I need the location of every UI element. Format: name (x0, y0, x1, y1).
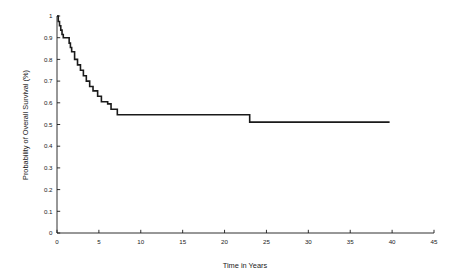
y-tick-label: 0.8 (44, 56, 53, 63)
x-tick-label: 0 (55, 238, 59, 245)
x-tick-label: 30 (305, 238, 312, 245)
y-tick-label: 1 (49, 12, 53, 19)
x-tick-label: 40 (389, 238, 396, 245)
survival-chart-figure: 051015202530354045 00.10.20.30.40.50.60.… (0, 0, 458, 274)
y-axis-tick-group: 00.10.20.30.40.50.60.70.80.91 (44, 12, 60, 236)
x-tick-label: 25 (263, 238, 270, 245)
x-tick-label: 10 (137, 238, 144, 245)
y-tick-label: 0.5 (44, 121, 53, 128)
survival-step-curve (57, 16, 390, 122)
x-tick-label: 35 (347, 238, 354, 245)
x-axis-title: Time in Years (223, 261, 268, 270)
y-tick-label: 0.3 (44, 164, 53, 171)
x-tick-label: 45 (431, 238, 438, 245)
x-tick-label: 20 (221, 238, 228, 245)
kaplan-meier-plot: 051015202530354045 00.10.20.30.40.50.60.… (0, 0, 458, 274)
x-tick-label: 15 (179, 238, 186, 245)
x-tick-label: 5 (97, 238, 101, 245)
x-axis-tick-group: 051015202530354045 (55, 230, 438, 245)
y-tick-label: 0.7 (44, 77, 53, 84)
y-tick-label: 0.1 (44, 208, 53, 215)
y-axis-title: Probability of Overall Survival (%) (21, 70, 30, 180)
y-tick-label: 0.4 (44, 142, 53, 149)
y-tick-label: 0 (49, 229, 53, 236)
y-tick-label: 0.6 (44, 99, 53, 106)
y-tick-label: 0.9 (44, 34, 53, 41)
y-tick-label: 0.2 (44, 186, 53, 193)
